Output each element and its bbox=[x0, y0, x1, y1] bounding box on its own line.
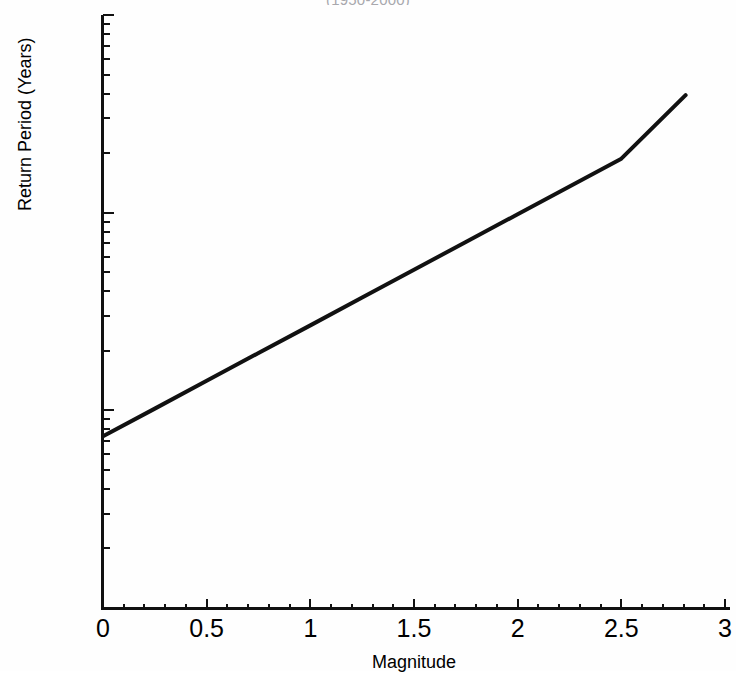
x-axis-title: Magnitude bbox=[372, 652, 456, 673]
y-axis-title: Return Period (Years) bbox=[15, 38, 36, 211]
data-line-return-period bbox=[103, 95, 686, 436]
series-layer bbox=[103, 15, 725, 608]
x-tick-label: 2 bbox=[511, 616, 525, 641]
chart-title-cropped: (1950-2000) bbox=[0, 0, 736, 5]
x-tick-label: 1.5 bbox=[397, 616, 432, 641]
x-tick-label: 0 bbox=[96, 616, 110, 641]
x-tick-label: 1 bbox=[303, 616, 317, 641]
x-tick-label: 2.5 bbox=[604, 616, 639, 641]
x-tick-label: 0.5 bbox=[189, 616, 224, 641]
x-tick-label: 3 bbox=[718, 616, 732, 641]
plot-area: 1010.10.01 00.511.522.53 Return Period (… bbox=[103, 15, 725, 608]
